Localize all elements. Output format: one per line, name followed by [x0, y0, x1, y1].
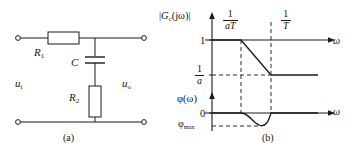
ytick-one: 1	[200, 36, 205, 47]
ytick-phi-max: φmax	[178, 119, 195, 130]
magnitude-axis-label: |Gc(jω)|	[159, 11, 191, 22]
label-c: C	[71, 57, 78, 68]
phase-omega-label: ω	[333, 107, 340, 117]
xtick-1-over-aT: 1aT	[223, 9, 238, 31]
phase-axis-label: φ(ω)	[177, 94, 197, 105]
terminal-output-top	[142, 36, 147, 41]
terminal-input-bottom	[16, 120, 21, 125]
resistor-r1	[48, 32, 79, 44]
xtick-1-over-T: 1T	[281, 9, 291, 31]
label-r2: R2	[69, 92, 79, 105]
caption-b: (b)	[262, 133, 274, 143]
capacitor-c	[85, 57, 105, 63]
terminal-output-bottom	[142, 120, 147, 125]
label-r1: R1	[34, 47, 44, 60]
label-input-voltage: ui	[15, 78, 22, 91]
ytick-zero: 0	[200, 109, 205, 120]
terminal-input-top	[16, 36, 21, 41]
figure-drawing	[0, 0, 356, 155]
magnitude-asymptote-curve	[212, 40, 318, 75]
caption-a: (a)	[63, 133, 74, 143]
phase-response-curve	[212, 113, 318, 126]
ytick-1-over-a: 1a	[195, 64, 204, 86]
label-output-voltage: uo	[122, 78, 131, 91]
phase-y-arrowhead	[209, 92, 215, 99]
y-axis-arrowhead	[209, 12, 215, 19]
magnitude-omega-label: ω	[333, 36, 340, 46]
resistor-r2	[89, 86, 101, 117]
textbook-figure: R1 C R2 ui uo (a) |Gc(jω)| 1aT 1T 1 1a φ…	[0, 0, 356, 155]
